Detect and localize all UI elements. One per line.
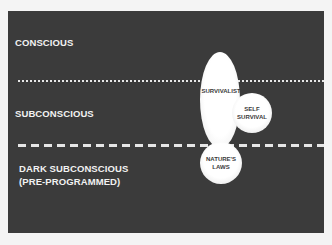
self-survival-label: SELF SURVIVAL — [237, 105, 267, 121]
dark-subconscious-label: DARK SUBCONSCIOUS (PRE-PROGRAMMED) — [19, 162, 128, 188]
survivalist-label: SURVIVALIST — [193, 88, 249, 94]
self-survival-line1: SELF — [237, 105, 267, 113]
natures-laws-line2: LAWS — [206, 163, 236, 171]
self-survival-line2: SURVIVAL — [237, 113, 267, 121]
subconscious-label: SUBCONSCIOUS — [15, 107, 94, 120]
conscious-subconscious-divider — [18, 80, 324, 82]
dark-subconscious-line1: DARK SUBCONSCIOUS — [19, 162, 128, 175]
subconscious-dark-divider — [18, 144, 324, 147]
conscious-label: CONSCIOUS — [15, 36, 73, 49]
natures-laws-line1: NATURE'S — [206, 155, 236, 163]
survivalist-ellipse — [200, 52, 240, 148]
diagram-panel: CONSCIOUS SUBCONSCIOUS DARK SUBCONSCIOUS… — [8, 11, 324, 233]
natures-laws-circle: NATURE'S LAWS — [200, 142, 242, 184]
natures-laws-label: NATURE'S LAWS — [206, 155, 236, 171]
self-survival-circle: SELF SURVIVAL — [232, 93, 272, 133]
dark-subconscious-line2: (PRE-PROGRAMMED) — [19, 175, 128, 188]
